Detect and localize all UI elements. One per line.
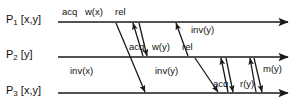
- process-label-p1: P1 [x,y]: [6, 13, 41, 27]
- event-label-m-y-p3: m(y): [263, 63, 282, 74]
- event-label-inv-x-p3: inv(x): [70, 65, 93, 76]
- event-label-rel-p2: rel: [182, 41, 193, 52]
- process-subscript-p1: 1: [13, 18, 17, 27]
- sequence-diagram-canvas: P1 [x,y] P2 [y] P3 [x,y] acq w(x) rel in…: [0, 0, 301, 112]
- event-label-w-x-p1: w(x): [85, 6, 103, 17]
- process-label-p3: P3 [x,y]: [6, 84, 41, 98]
- process-label-p2: P2 [y]: [6, 48, 32, 62]
- event-label-acq-p2: acq: [129, 41, 144, 52]
- event-label-r-y-p3: r(y): [240, 78, 254, 89]
- process-vars-p3: [x,y]: [21, 84, 41, 96]
- diagram-svg: [0, 0, 301, 112]
- process-vars-p2: [y]: [21, 48, 33, 60]
- event-label-acq-p1: acq: [62, 6, 77, 17]
- event-label-acq-p3: acq: [213, 78, 228, 89]
- event-label-inv-y-p3: inv(y): [155, 65, 178, 76]
- process-vars-p1: [x,y]: [21, 13, 41, 25]
- process-subscript-p2: 2: [13, 53, 17, 62]
- event-label-w-y-p2: w(y): [152, 41, 170, 52]
- process-subscript-p3: 3: [13, 89, 17, 98]
- event-label-rel-p1: rel: [115, 6, 126, 17]
- event-label-inv-y-p1: inv(y): [191, 24, 214, 35]
